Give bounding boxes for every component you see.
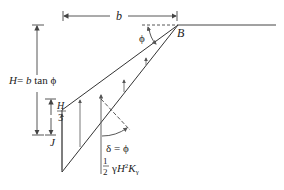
label-H3-numerator: H <box>56 100 65 111</box>
label-J: J <box>50 136 56 148</box>
label-force-expression: γH2Kγ <box>111 162 139 176</box>
label-B: B <box>177 26 185 40</box>
label-H-equation-rest: = b tan ϕ <box>17 74 56 86</box>
phi-arc-start <box>148 27 149 31</box>
label-b: b <box>116 9 122 23</box>
pressure-envelope <box>62 25 178 110</box>
label-delta: δ = ϕ <box>106 142 129 154</box>
label-phi-top: ϕ <box>139 32 145 44</box>
label-H3-denominator: 3 <box>58 112 63 123</box>
label-force-denominator: 2 <box>103 167 108 177</box>
diagram-canvas: b B ϕ H = b tan ϕ H 3 J δ = ϕ 1 2 γH2Kγ <box>0 0 284 190</box>
label-force-numerator: 1 <box>103 156 108 166</box>
delta-arc <box>102 128 127 136</box>
